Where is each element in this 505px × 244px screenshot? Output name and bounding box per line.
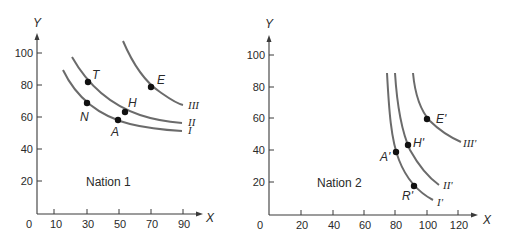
point-E-prime [424,116,430,122]
point-label: A' [379,150,391,164]
point-label: E' [436,112,447,126]
curve-label: II' [442,179,453,191]
y-tick-label: 100 [15,47,33,59]
x-axis-arrow-icon [471,213,478,218]
y-tick-label: 80 [253,81,265,93]
origin-label: 0 [26,218,32,230]
x-tick-label: 60 [359,219,371,231]
point-label: A [110,125,119,139]
x-ticks: 10 30 50 70 90 [50,209,190,230]
point-E [148,84,154,90]
point-label: N [80,110,89,124]
chart-nation-2: Y X 0 100 80 60 40 20 20 40 60 80 100 [247,17,492,231]
indifference-curve-I-prime [387,73,433,200]
point-A-prime [393,149,399,155]
x-tick-label: 20 [296,219,308,231]
chart-figure: Y X 0 100 80 60 40 20 10 30 50 70 9 [0,0,505,244]
curve-label: I' [436,196,444,208]
y-tick-label: 20 [253,176,265,188]
y-tick-label: 20 [21,175,33,187]
curve-label: III [187,99,200,111]
point-A [115,117,121,123]
y-axis-label: Y [33,16,42,30]
point-label: E [157,73,166,87]
y-tick-label: 80 [21,79,33,91]
y-ticks: 100 80 60 40 20 [247,49,274,188]
point-H-prime [405,142,411,148]
point-label: T [92,68,101,82]
x-tick-label: 50 [114,218,126,230]
point-label: H [128,96,137,110]
point-label: R' [402,189,414,203]
x-tick-label: 70 [146,218,158,230]
x-axis-label: X [482,213,492,227]
x-ticks: 20 40 60 80 100 120 [296,210,468,231]
x-tick-label: 10 [50,218,62,230]
y-tick-label: 60 [21,111,33,123]
x-axis-label: X [205,211,215,225]
chart-nation-1: Y X 0 100 80 60 40 20 10 30 50 70 9 [15,16,215,230]
x-tick-label: 30 [82,218,94,230]
x-tick-label: 120 [450,219,468,231]
indifference-curve-III-prime [413,73,461,142]
x-tick-label: 80 [390,219,402,231]
curve-label: III' [462,137,477,149]
x-tick-label: 90 [178,218,190,230]
point-label: H' [413,136,425,150]
x-tick-label: 100 [419,219,437,231]
point-T [85,79,91,85]
y-tick-label: 100 [247,49,265,61]
chart-title: Nation 2 [317,176,362,190]
x-tick-label: 40 [328,219,340,231]
y-axis-label: Y [265,17,274,31]
y-tick-label: 60 [253,112,265,124]
chart-title: Nation 1 [86,175,131,189]
origin-label: 0 [257,219,263,231]
point-N [84,100,90,106]
y-axis-arrow-icon [267,35,272,42]
y-tick-label: 40 [253,144,265,156]
y-axis-arrow-icon [35,33,40,40]
x-axis-arrow-icon [196,212,203,217]
y-ticks: 100 80 60 40 20 [15,47,42,187]
y-tick-label: 40 [21,143,33,155]
